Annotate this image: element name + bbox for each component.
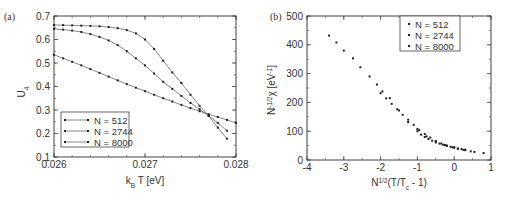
y-tick-label: 0.7 <box>36 11 50 22</box>
data-point <box>217 122 219 124</box>
data-point <box>108 26 110 28</box>
data-point <box>235 122 237 124</box>
y-axis-label-b: N-1/2χ [eV-1] <box>266 65 278 115</box>
data-point <box>53 28 55 30</box>
y-axis-label-b-part: ] <box>266 65 277 68</box>
data-point <box>420 134 422 136</box>
data-point <box>71 30 73 32</box>
data-point <box>80 64 82 66</box>
data-point <box>389 97 391 99</box>
data-point <box>435 141 437 143</box>
data-point <box>398 109 400 111</box>
data-point <box>190 102 192 104</box>
legend-label: N = 2744 <box>94 126 133 137</box>
data-point <box>438 143 440 145</box>
data-point <box>117 27 119 29</box>
data-point <box>135 87 137 89</box>
data-point <box>144 90 146 92</box>
data-point <box>451 146 453 148</box>
data-point <box>442 144 444 146</box>
data-point <box>483 152 485 154</box>
y-tick-label: 0.3 <box>36 105 50 116</box>
data-point <box>426 135 428 137</box>
data-point <box>429 137 431 139</box>
legend-marker <box>408 34 410 36</box>
data-point <box>473 151 475 153</box>
legend-label: N = 8000 <box>94 137 133 148</box>
data-point <box>402 114 404 116</box>
x-tick-label: -2 <box>376 162 385 173</box>
x-tick-label: -4 <box>303 162 312 173</box>
data-point <box>444 144 446 146</box>
data-point <box>328 35 330 37</box>
y-tick-label: 0 <box>297 155 303 166</box>
data-point <box>226 119 228 121</box>
data-point <box>135 32 137 34</box>
data-point <box>416 130 418 132</box>
data-point <box>446 145 448 147</box>
data-point <box>190 107 192 109</box>
data-point <box>162 81 164 83</box>
data-point <box>62 24 64 26</box>
y-tick-label: 0.2 <box>36 128 50 139</box>
data-point <box>171 71 173 73</box>
data-point <box>153 94 155 96</box>
data-point <box>199 105 201 107</box>
data-point <box>457 148 459 150</box>
data-point <box>162 60 164 62</box>
chart-b-svg: -4-3-2-1010100200300400500N = 512N = 274… <box>253 0 506 202</box>
x-tick-label: 1 <box>488 162 494 173</box>
data-point <box>71 24 73 26</box>
data-point <box>117 79 119 81</box>
data-point <box>171 101 173 103</box>
legend-marker <box>64 130 66 132</box>
panel-label-b: (b) <box>270 11 282 23</box>
y-tick-label: 0.4 <box>36 81 50 92</box>
data-point <box>144 39 146 41</box>
data-point <box>461 148 463 150</box>
y-axis-label-b-part: N <box>266 108 277 115</box>
data-point <box>180 95 182 97</box>
data-point <box>171 88 173 90</box>
data-point <box>180 82 182 84</box>
data-point <box>199 108 201 110</box>
y-axis-label-b-part: χ [eV <box>266 73 277 96</box>
data-point <box>89 68 91 70</box>
y-tick-label: 200 <box>286 97 303 108</box>
data-point <box>126 50 128 52</box>
x-axis-label-b-part: 1/2 <box>378 177 387 184</box>
data-point <box>359 66 361 68</box>
x-axis-label-a-part: T [eV] <box>135 175 164 186</box>
data-point <box>208 115 210 117</box>
data-point <box>53 54 55 56</box>
data-point <box>217 127 219 129</box>
x-axis-label-b-part: - 1) <box>409 177 427 188</box>
data-point <box>180 104 182 106</box>
y-tick-label: 500 <box>286 11 303 22</box>
data-point <box>424 136 426 138</box>
y-tick-label: 300 <box>286 68 303 79</box>
x-axis-label-a: kB T [eV] <box>126 175 165 189</box>
data-point <box>99 72 101 74</box>
data-point <box>381 90 383 92</box>
y-tick-label: 0.6 <box>36 34 50 45</box>
data-point <box>352 57 354 59</box>
data-point <box>108 39 110 41</box>
data-point <box>385 97 387 99</box>
plot-frame <box>307 16 491 160</box>
x-tick-label: 0.028 <box>223 159 248 170</box>
data-point <box>99 36 101 38</box>
x-tick-label: -3 <box>339 162 348 173</box>
data-point <box>126 83 128 85</box>
panel-label-a: (a) <box>4 11 15 23</box>
data-point <box>144 64 146 66</box>
data-point <box>89 33 91 35</box>
data-point <box>135 57 137 59</box>
data-point <box>53 24 55 26</box>
data-point <box>199 110 201 112</box>
legend-marker <box>408 45 410 47</box>
data-point <box>162 97 164 99</box>
data-point <box>226 130 228 132</box>
data-point <box>391 103 393 105</box>
data-point <box>462 149 464 151</box>
